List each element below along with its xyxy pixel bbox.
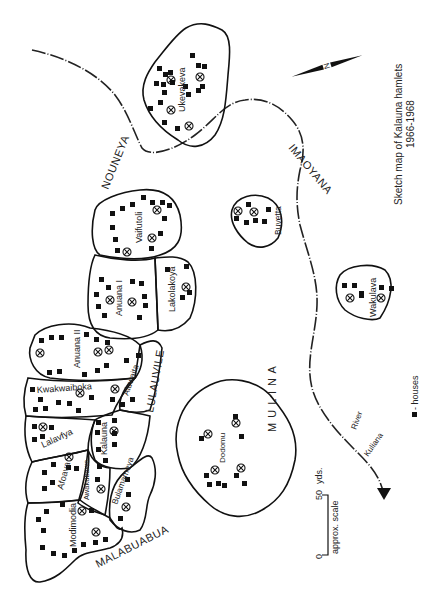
label-awakubawe: Awakubawe bbox=[82, 460, 91, 500]
label-bulamameya: Bulamameya bbox=[109, 455, 135, 505]
svg-text:approx. scale: approx. scale bbox=[330, 500, 340, 554]
svg-text:0: 0 bbox=[314, 554, 324, 559]
label-dodomu: Dodomu bbox=[218, 433, 227, 463]
label-modimodia: Modimodia bbox=[68, 503, 78, 547]
river-label-river: River bbox=[349, 410, 364, 431]
svg-text:N: N bbox=[321, 62, 331, 70]
label-wakulava: Wakulava bbox=[368, 278, 378, 317]
kuliana-river bbox=[32, 50, 384, 495]
area-label-lulauvile: LULAUVILE bbox=[143, 348, 166, 413]
map-subtitle: 1966-1968 bbox=[405, 100, 416, 148]
river-arrow-icon bbox=[377, 488, 391, 500]
area-label-malabuabua: MALABUABUA bbox=[93, 523, 170, 570]
area-label-imaoyana: IMAOYANA bbox=[286, 142, 335, 197]
houses-icon bbox=[412, 412, 417, 417]
label-anuana-i: Anuana I bbox=[114, 280, 124, 316]
map-title: Sketch map of Kalauna hamlets bbox=[393, 64, 404, 205]
legend-label: - houses bbox=[410, 375, 420, 410]
label-vaifutoli: Vaifutoli bbox=[134, 212, 144, 243]
svg-text:yds.: yds. bbox=[314, 467, 324, 484]
scale-bar: 0 50 yds. approx. scale bbox=[314, 467, 340, 559]
area-label-nouneya: NOUNEYA bbox=[99, 133, 132, 191]
label-buvetta: Buvetta bbox=[273, 206, 283, 235]
label-afoava: Afoava bbox=[55, 461, 72, 491]
label-anuana-ii: Anuana II bbox=[72, 329, 82, 368]
svg-text:50: 50 bbox=[314, 490, 324, 500]
label-kalauna: Kalauna bbox=[99, 422, 109, 455]
label-ukevakeva: Ukevakeva bbox=[177, 67, 187, 112]
north-arrow-icon: N bbox=[291, 52, 364, 79]
hamlet-map: Ukevakeva Vaifutoli Buvetta Anuana I Lak… bbox=[0, 0, 447, 602]
label-lakolakoya: Lakolakoya bbox=[167, 266, 177, 312]
river-label-kuliana: Kuliana bbox=[362, 431, 385, 458]
area-label-mulina: M U L I N A bbox=[266, 365, 278, 432]
